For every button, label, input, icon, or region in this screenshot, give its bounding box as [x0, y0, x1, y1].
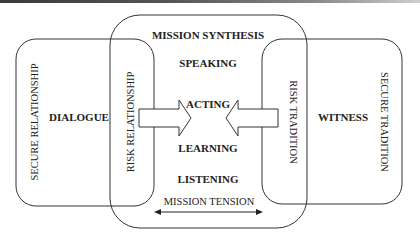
risk-relationship-label: RISK RELATIONSHIP	[126, 72, 137, 173]
tension-arrowhead-left	[154, 209, 161, 215]
secure-relationship-label: SECURE RELATIONSHIP	[30, 64, 41, 181]
acting-label: ACTING	[186, 99, 230, 110]
dialogue-label: DIALOGUE	[49, 112, 109, 123]
right-block-arrow	[139, 100, 191, 136]
speaking-label: SPEAKING	[179, 58, 236, 69]
secure-tradition-label: SECURE TRADITION	[379, 72, 390, 172]
mission-tension-label: MISSION TENSION	[164, 197, 255, 208]
risk-tradition-label: RISK TRADITION	[288, 80, 299, 164]
listening-label: LISTENING	[177, 174, 238, 185]
learning-label: LEARNING	[178, 143, 237, 154]
tension-arrowhead-right	[256, 209, 263, 215]
witness-label: WITNESS	[318, 112, 368, 123]
mission-synthesis-title: MISSION SYNTHESIS	[152, 30, 264, 41]
left-block-arrow	[226, 100, 278, 136]
